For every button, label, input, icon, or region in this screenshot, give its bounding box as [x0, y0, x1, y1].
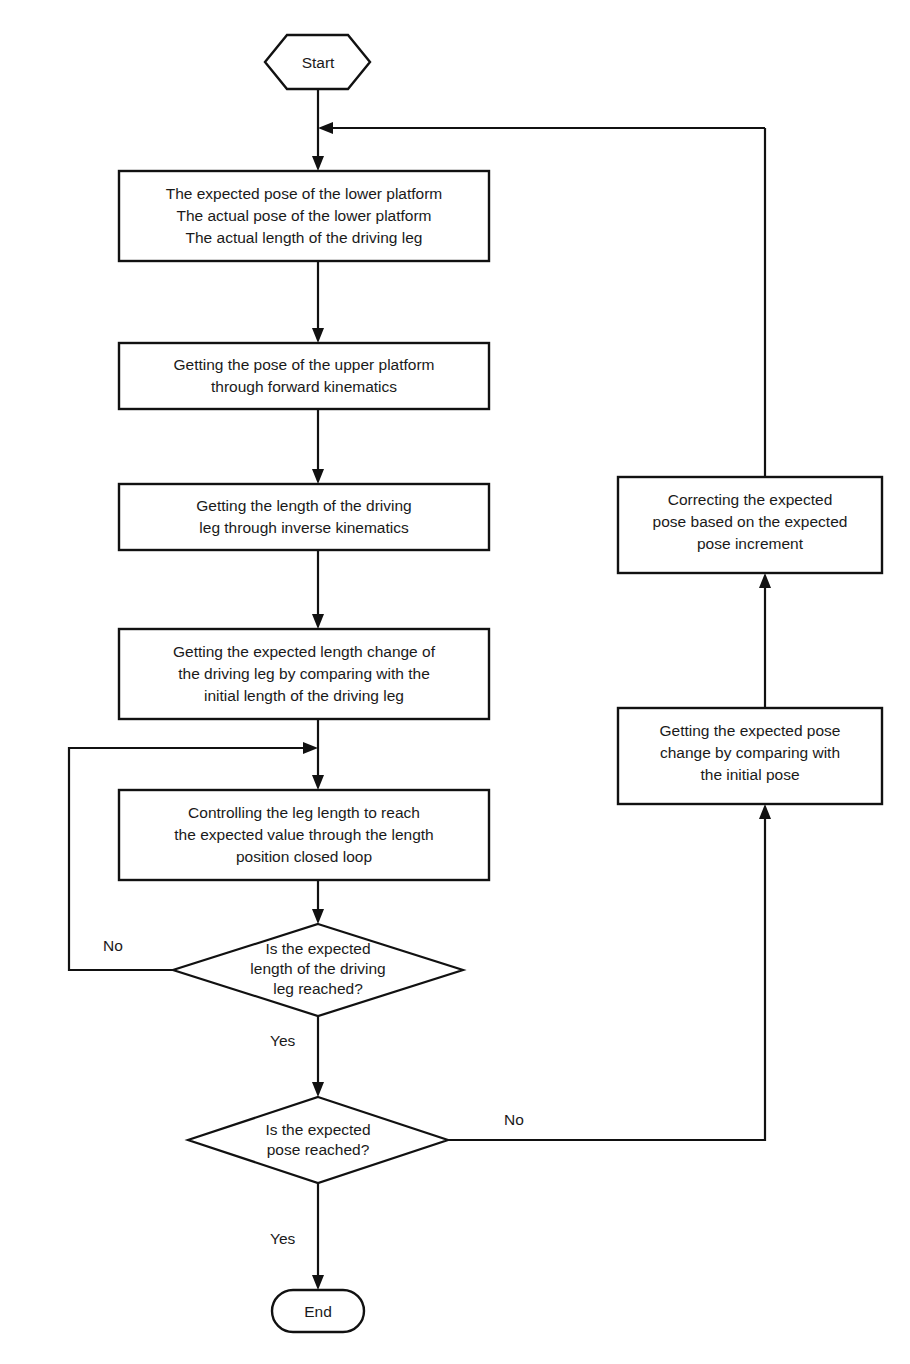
arrowhead-pose-no-to-pose-change	[759, 804, 771, 819]
arrowhead-pose-yes-to-end	[312, 1275, 324, 1290]
edge-pose-no-to-pose-change	[448, 812, 765, 1140]
arrowhead-length-change-to-control	[312, 775, 324, 790]
arrowhead-forward-to-inverse	[312, 469, 324, 484]
start-hexagon	[265, 35, 370, 89]
correct-pose-box	[618, 477, 882, 573]
closed-loop-control-box	[119, 790, 489, 880]
arrowhead-inverse-to-length-change	[312, 614, 324, 629]
arrowhead-loopback-top	[318, 122, 333, 134]
edge-label-length-yes: Yes	[270, 1031, 295, 1050]
arrowhead-length-yes-to-pose-decision	[312, 1082, 324, 1097]
edge-label-length-no: No	[103, 936, 123, 955]
forward-kinematics-box	[119, 343, 489, 409]
arrowhead-pose-change-to-correct	[759, 573, 771, 588]
inputs-box	[119, 171, 489, 261]
length-decision-diamond	[173, 924, 463, 1016]
edge-label-pose-no: No	[504, 1110, 524, 1129]
expected-length-change-box	[119, 629, 489, 719]
flowchart-svg	[0, 0, 910, 1364]
arrowhead-control-to-length-decision	[312, 909, 324, 924]
expected-pose-change-box	[618, 708, 882, 804]
pose-decision-diamond	[188, 1097, 448, 1183]
arrowhead-start-to-inputs	[312, 156, 324, 171]
arrowhead-length-no-loop	[303, 742, 318, 754]
inverse-kinematics-box	[119, 484, 489, 550]
end-terminator	[272, 1290, 364, 1332]
edge-label-pose-yes: Yes	[270, 1229, 295, 1248]
flowchart-canvas: Start The expected pose of the lower pla…	[0, 0, 910, 1364]
arrowhead-inputs-to-forward	[312, 328, 324, 343]
